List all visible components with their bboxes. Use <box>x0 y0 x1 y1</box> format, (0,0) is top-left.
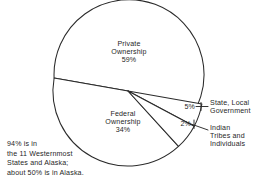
pie-chart-figure: Private Ownership 59% Federal Ownership … <box>0 0 257 184</box>
slice-value-indian-tribes-and-individuals: 2% <box>167 120 191 128</box>
callout-label-indian-tribes-and-individuals: Indian Tribes and Individuals <box>210 124 256 149</box>
slice-label-federal-ownership: Federal Ownership 34% <box>92 110 154 135</box>
footnote-federal-ownership: 94% is in the 11 Westernmost States and … <box>7 140 93 178</box>
callout-label-state-local-government: State, Local Government <box>210 99 256 115</box>
slice-label-private-ownership: Private Ownership 59% <box>98 40 160 65</box>
slice-value-state-local-government: 5% <box>171 103 195 111</box>
